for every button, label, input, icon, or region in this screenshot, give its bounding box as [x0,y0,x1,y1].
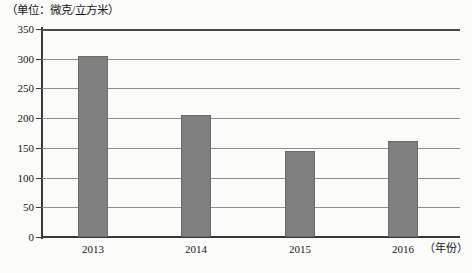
y-axis-tick-labels: 350 300 250 200 150 100 50 0 [0,0,34,273]
y-tick-label-200: 200 [0,113,34,124]
bar-2014 [181,115,211,237]
gridline-350 [42,29,460,31]
x-tick-label-2014: 2014 [166,243,226,255]
y-tick-label-100: 100 [0,173,34,184]
y-tick-label-150: 150 [0,143,34,154]
x-tick-label-2015: 2015 [270,243,330,255]
y-tick-label-50: 50 [0,202,34,213]
bar-chart: （单位：微克/立方米） 350 300 250 200 150 100 50 0… [0,0,472,273]
bar-2016 [388,141,418,237]
y-tick-label-350: 350 [0,24,34,35]
plot-area [42,29,460,237]
x-axis-title: （年份） [424,242,468,255]
bar-2013 [78,56,108,237]
y-tick-label-300: 300 [0,54,34,65]
x-tick-label-2013: 2013 [63,243,123,255]
y-tick-label-250: 250 [0,83,34,94]
bar-2015 [285,151,315,237]
y-tick-label-0: 0 [0,232,34,243]
